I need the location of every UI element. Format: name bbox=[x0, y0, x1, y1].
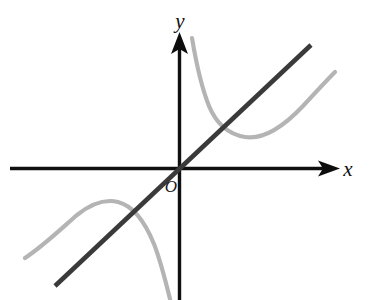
curve-branch-quadrant-III bbox=[25, 201, 170, 299]
math-figure-canvas: x y O bbox=[0, 0, 374, 300]
coordinate-plane-svg: x y O bbox=[0, 0, 374, 300]
axes-group bbox=[10, 32, 340, 300]
origin-label: O bbox=[165, 177, 177, 196]
y-axis-label: y bbox=[173, 9, 185, 33]
line-group bbox=[55, 45, 311, 286]
line-through-origin bbox=[55, 45, 311, 286]
x-axis-label: x bbox=[342, 157, 353, 181]
